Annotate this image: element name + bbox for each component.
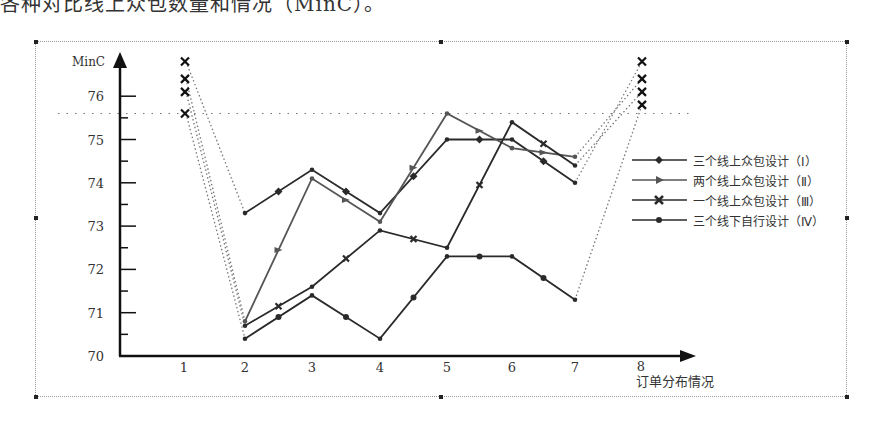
y-tick-label: 71 [87, 306, 104, 321]
data-point [510, 137, 515, 142]
chart-legend: 三个线上众包设计（Ⅰ） 两个线上众包设计（Ⅱ） 一个线上众包设计（Ⅲ） 三个线下… [632, 150, 824, 230]
data-point [510, 146, 515, 151]
data-point [445, 111, 450, 116]
data-point [510, 254, 515, 259]
legend-item-series-1: 三个线上众包设计（Ⅰ） [632, 150, 824, 170]
x-marker-icon [343, 256, 349, 262]
triangle-marker-icon [632, 175, 687, 185]
x-marker-icon [181, 88, 189, 96]
y-tick-label: 76 [87, 89, 104, 104]
data-point [243, 319, 248, 324]
legend-item-series-4: 三个线下自行设计（Ⅳ） [632, 210, 824, 230]
circle-marker-icon [276, 314, 282, 320]
x-axis-label: 订单分布情况 [636, 374, 714, 389]
x-marker-icon [181, 75, 189, 83]
y-tick-label: 70 [87, 349, 104, 364]
data-point [310, 176, 315, 181]
x-tick-label: 2 [241, 360, 249, 375]
x-marker-icon [638, 101, 646, 109]
circle-marker-icon [411, 295, 417, 301]
x-tick-label: 1 [180, 360, 188, 375]
data-point [310, 284, 315, 289]
diamond-marker-icon [476, 136, 484, 144]
data-point [445, 254, 450, 259]
dotted-extension [186, 92, 245, 326]
data-point [243, 323, 248, 328]
x-tick-label: 3 [308, 360, 316, 375]
x-tick-label: 6 [508, 360, 516, 375]
dotted-extension [186, 114, 245, 339]
x-marker-icon [638, 58, 646, 66]
data-point [243, 211, 248, 216]
x-tick-label: 4 [376, 360, 384, 375]
triangle-marker-icon [410, 165, 418, 171]
x-marker-icon [638, 88, 646, 96]
legend-item-series-2: 两个线上众包设计（Ⅱ） [632, 170, 824, 190]
circle-marker-icon [477, 253, 483, 259]
data-point [378, 336, 383, 341]
circle-marker-icon [541, 275, 547, 281]
dotted-extension [186, 79, 245, 321]
x-marker-icon [541, 141, 547, 147]
data-point [573, 155, 578, 160]
x-marker-icon [181, 110, 189, 118]
y-axis-label: MinC [72, 55, 105, 69]
series-line-2 [245, 114, 575, 322]
data-point [378, 228, 383, 233]
x-tick-label: 7 [571, 360, 579, 375]
series-line-3 [245, 122, 575, 326]
data-point [573, 163, 578, 168]
legend-item-series-3: 一个线上众包设计（Ⅲ） [632, 190, 824, 210]
data-point [510, 120, 515, 125]
y-tick-label: 73 [87, 219, 104, 234]
data-point [573, 181, 578, 186]
data-point [310, 293, 315, 298]
data-point [445, 245, 450, 250]
data-point [378, 219, 383, 224]
x-marker-icon [638, 75, 646, 83]
x-marker-icon [181, 58, 189, 66]
diamond-marker-icon [632, 155, 687, 165]
data-point [243, 336, 248, 341]
x-marker-icon [276, 303, 282, 309]
x-tick-label: 5 [443, 360, 451, 375]
y-tick-label: 74 [87, 176, 104, 191]
dotted-extension [575, 79, 642, 157]
data-point [573, 297, 578, 302]
data-point [445, 137, 450, 142]
x-tick-label: 8 [637, 359, 645, 374]
y-axis-arrow-icon [113, 52, 127, 68]
dotted-extension [186, 62, 245, 214]
y-tick-label: 75 [87, 133, 104, 148]
x-marker-icon [632, 195, 687, 205]
x-axis-arrow-icon [680, 350, 696, 362]
data-point [310, 168, 315, 173]
data-point [378, 211, 383, 216]
circle-marker-icon [343, 314, 349, 320]
x-marker-icon [477, 182, 483, 188]
y-tick-label: 72 [87, 262, 104, 277]
triangle-marker-icon [540, 149, 548, 155]
circle-marker-icon [632, 215, 687, 225]
